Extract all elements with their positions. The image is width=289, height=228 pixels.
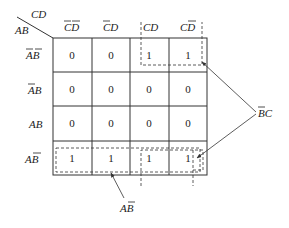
svg-text:AB: AB [27,84,42,96]
karnaugh-map: CD AB CD CD CD CD AB AB [0,0,289,228]
row-variables-label: AB [14,24,29,36]
cell-r3-c3: 1 [185,152,191,164]
cell-r3-c0: 1 [69,152,75,164]
svg-text:AB: AB [25,49,40,61]
cell-r1-c1: 0 [108,83,114,95]
column-headers: CD CD CD CD [64,21,196,33]
cell-r0-c2: 1 [146,49,152,61]
row-header-a-b: AB [28,118,43,130]
cell-r0-c3: 1 [185,49,191,61]
svg-text:CD: CD [180,21,195,33]
cell-r3-c1: 1 [108,152,114,164]
cell-r2-c2: 0 [146,117,152,129]
row-headers: AB AB AB AB [24,49,43,165]
group-label-a-bbar: AB [111,173,135,214]
row-header-abar-bbar: AB [25,49,42,61]
cell-r1-c3: 0 [185,83,191,95]
row-header-abar-b: AB [27,84,42,96]
arrow-to-bottom-group [197,114,256,158]
column-variables-label: CD [31,8,46,20]
svg-text:CD: CD [143,21,158,33]
arrow-to-top-group [202,62,256,112]
cell-r3-c2: 1 [146,152,152,164]
cell-r1-c2: 0 [146,83,152,95]
corner-header: CD AB [14,8,53,38]
cell-r0-c1: 0 [108,49,114,61]
label-bbar-c: BC [258,107,273,119]
cell-r1-c0: 0 [69,83,75,95]
svg-text:AB: AB [24,153,39,165]
svg-text:AB: AB [28,118,43,130]
cell-r2-c1: 0 [108,117,114,129]
group-label-bbar-c: BC [197,62,273,158]
group-a-bbar [56,148,200,172]
column-header-cbar-d: CD [103,21,118,33]
cell-r2-c0: 0 [69,117,75,129]
map-grid [53,38,207,175]
column-header-cbar-dbar: CD [64,21,80,33]
svg-text:CD: CD [64,21,79,33]
row-header-a-bbar: AB [24,153,41,165]
cell-r0-c0: 0 [69,49,75,61]
column-header-c-d: CD [143,21,158,33]
cell-r2-c3: 0 [185,117,191,129]
arrow-to-bottom-row-group [111,173,124,198]
column-header-c-dbar: CD [180,21,196,33]
label-a-bbar: AB [119,202,134,214]
svg-text:CD: CD [103,21,118,33]
